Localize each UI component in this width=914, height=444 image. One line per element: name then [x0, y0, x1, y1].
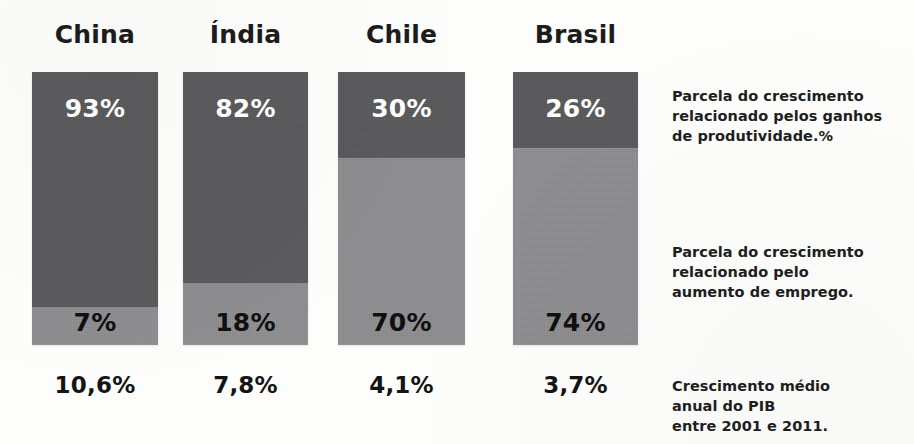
bar-group-chile: Chile 30% 70% 4,1% — [338, 0, 465, 444]
country-label-brasil: Brasil — [513, 20, 638, 50]
stacked-bar-china[interactable]: 93% 7% — [32, 72, 158, 345]
gdp-value-india: 7,8% — [183, 372, 308, 398]
stacked-bar-india[interactable]: 82% 18% — [183, 72, 308, 345]
segment-value-employment-india: 18% — [183, 308, 308, 337]
legend-item-productivity: Parcela do crescimento relacionado pelos… — [672, 86, 908, 146]
stacked-bar-chile[interactable]: 30% 70% — [338, 72, 465, 345]
gdp-value-china: 10,6% — [32, 372, 158, 398]
segment-value-employment-china: 7% — [32, 308, 158, 337]
legend-item-employment: Parcela do crescimento relacionado pelo … — [672, 242, 908, 302]
legend: Parcela do crescimento relacionado pelos… — [672, 0, 914, 444]
segment-employment-brasil[interactable]: 74% — [513, 148, 638, 345]
gdp-value-chile: 4,1% — [338, 372, 465, 398]
stacked-bar-brasil[interactable]: 26% 74% — [513, 72, 638, 345]
bar-group-brasil: Brasil 26% 74% 3,7% — [513, 0, 638, 444]
segment-employment-chile[interactable]: 70% — [338, 158, 465, 345]
segment-value-productivity-china: 93% — [32, 94, 158, 123]
gdp-value-brasil: 3,7% — [513, 372, 638, 398]
stacked-bar-chart: China 93% 7% 10,6% Índia 82% 18% 7,8% Ch… — [0, 0, 660, 444]
bar-group-india: Índia 82% 18% 7,8% — [183, 0, 308, 444]
segment-employment-china[interactable]: 7% — [32, 307, 158, 345]
segment-value-employment-brasil: 74% — [513, 308, 638, 337]
legend-gdp-line1: Crescimento médio — [672, 376, 908, 396]
legend-employment-line3: aumento de emprego. — [672, 282, 908, 302]
segment-productivity-chile[interactable]: 30% — [338, 72, 465, 158]
legend-employment-line2: relacionado pelo — [672, 262, 908, 282]
legend-employment-line1: Parcela do crescimento — [672, 242, 908, 262]
segment-value-productivity-chile: 30% — [338, 94, 465, 123]
legend-gdp-line3: entre 2001 e 2011. — [672, 416, 908, 436]
country-label-china: China — [32, 20, 158, 50]
segment-productivity-china[interactable]: 93% — [32, 72, 158, 307]
segment-value-employment-chile: 70% — [338, 308, 465, 337]
legend-productivity-line1: Parcela do crescimento — [672, 86, 908, 106]
segment-productivity-india[interactable]: 82% — [183, 72, 308, 283]
legend-productivity-line2: relacionado pelos ganhos — [672, 106, 908, 126]
bar-group-china: China 93% 7% 10,6% — [32, 0, 158, 444]
segment-productivity-brasil[interactable]: 26% — [513, 72, 638, 148]
segment-employment-india[interactable]: 18% — [183, 283, 308, 345]
legend-item-gdp: Crescimento médio anual do PIB entre 200… — [672, 376, 908, 436]
segment-value-productivity-brasil: 26% — [513, 94, 638, 123]
legend-productivity-line3: de produtividade.% — [672, 126, 908, 146]
country-label-india: Índia — [183, 20, 308, 50]
country-label-chile: Chile — [338, 20, 465, 50]
legend-gdp-line2: anual do PIB — [672, 396, 908, 416]
segment-value-productivity-india: 82% — [183, 94, 308, 123]
